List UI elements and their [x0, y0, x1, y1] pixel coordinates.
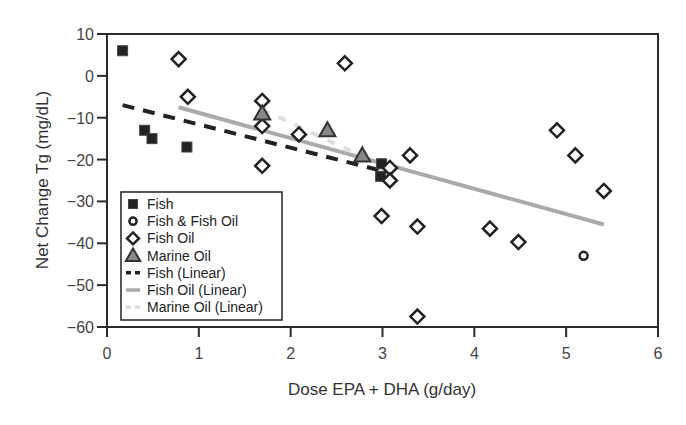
legend: FishFish & Fish OilFish OilMarine OilFis… — [121, 192, 282, 320]
legend-label: Fish Oil (Linear) — [147, 282, 247, 298]
square-marker — [118, 46, 128, 56]
x-tick-label: 6 — [654, 345, 663, 362]
diamond-marker — [338, 56, 352, 70]
legend-label: Marine Oil (Linear) — [147, 299, 263, 315]
y-tick-label: −20 — [67, 152, 94, 169]
x-tick-label: 3 — [378, 345, 387, 362]
diamond-marker — [511, 235, 525, 249]
legend-label: Fish Oil — [147, 230, 194, 246]
diamond-marker — [255, 159, 269, 173]
scatter-plot: 0123456100−10−20−30−40−50−60 Dose EPA + … — [0, 0, 686, 425]
chart: 0123456100−10−20−30−40−50−60 Dose EPA + … — [0, 0, 686, 425]
square-marker — [182, 142, 192, 152]
y-tick-label: −40 — [67, 235, 94, 252]
y-tick-label: −30 — [67, 193, 94, 210]
diamond-marker — [597, 184, 611, 198]
legend-item: Marine Oil (Linear) — [126, 299, 263, 315]
y-tick-label: −50 — [67, 277, 94, 294]
diamond-marker — [568, 148, 582, 162]
legend-label: Marine Oil — [147, 248, 211, 264]
y-tick-label: 0 — [85, 68, 94, 85]
diamond-marker — [181, 90, 195, 104]
square-marker — [147, 134, 157, 144]
diamond-marker — [375, 209, 389, 223]
diamond-marker — [410, 310, 424, 324]
x-tick-label: 5 — [562, 345, 571, 362]
y-axis-title: Net Change Tg (mg/dL) — [33, 91, 52, 269]
x-tick-label: 2 — [286, 345, 295, 362]
circle-marker — [129, 218, 136, 225]
circle-marker — [580, 252, 588, 260]
square-marker — [129, 200, 138, 209]
legend-label: Fish — [147, 196, 173, 212]
diamond-marker — [483, 222, 497, 236]
y-tick-label: −10 — [67, 110, 94, 127]
legend-label: Fish (Linear) — [147, 265, 226, 281]
x-axis-title: Dose EPA + DHA (g/day) — [288, 380, 476, 399]
x-tick-label: 4 — [470, 345, 479, 362]
legend-label: Fish & Fish Oil — [147, 213, 238, 229]
diamond-marker — [403, 148, 417, 162]
diamond-marker — [410, 220, 424, 234]
y-tick-label: −60 — [67, 319, 94, 336]
diamond-marker — [550, 123, 564, 137]
x-tick-label: 1 — [194, 345, 203, 362]
diamond-marker — [172, 52, 186, 66]
trend-line — [123, 105, 387, 172]
x-tick-label: 0 — [103, 345, 112, 362]
triangle-marker — [319, 122, 335, 136]
y-tick-label: 10 — [76, 26, 94, 43]
